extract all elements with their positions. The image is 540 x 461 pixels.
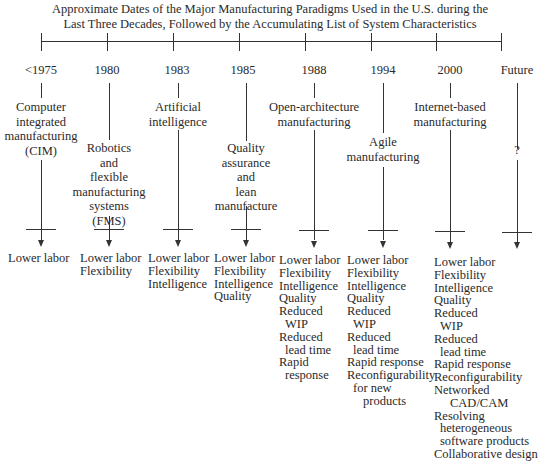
characteristics-list: Lower labor Flexibility Intelligence Qua… — [279, 254, 340, 382]
characteristic: Lower labor — [214, 252, 275, 265]
characteristic: Lower labor — [279, 254, 340, 267]
characteristics-list: Lower labor Flexibility Intelligence Qua… — [347, 254, 435, 408]
characteristics-list: Lower labor Flexibility — [80, 252, 141, 278]
characteristic: products — [347, 395, 435, 408]
characteristic: response — [279, 369, 340, 382]
paradigm-line: assurance — [191, 156, 301, 171]
paradigm-label: Quality assurance and lean manufacture — [191, 141, 301, 214]
paradigm-label: Internet-based manufacturing — [395, 100, 505, 129]
connector-line — [109, 83, 110, 140]
paradigm-line: Artificial — [123, 100, 233, 115]
year-label: 1994 — [348, 63, 418, 78]
paradigm-line: manufacturing — [328, 150, 438, 165]
connector-line — [314, 83, 315, 98]
characteristic: CAD/CAM — [434, 397, 538, 410]
paradigm-label: ? — [462, 143, 540, 158]
timeline-tick — [305, 33, 306, 51]
arrow-down-icon — [447, 242, 453, 249]
connector-line — [41, 83, 42, 98]
paradigm-line: Computer — [0, 100, 96, 115]
paradigm-line: lean — [191, 185, 301, 200]
year-label: <1975 — [6, 63, 76, 78]
characteristic: Networked — [434, 384, 538, 397]
timeline-tick — [436, 33, 437, 51]
characteristic: for new — [347, 382, 435, 395]
paradigm-line: manufacturing — [395, 115, 505, 130]
characteristic: WIP — [347, 318, 435, 331]
characteristics-list: Lower labor — [8, 252, 69, 265]
year-label: 2000 — [415, 63, 485, 78]
arrow-down-icon — [243, 240, 249, 247]
characteristic: Flexibility — [279, 267, 340, 280]
title-line-1: Approximate Dates of the Major Manufactu… — [0, 2, 540, 17]
paradigm-label: Robotics and flexible manufacturing syst… — [54, 141, 164, 228]
year-label: 1988 — [279, 63, 349, 78]
paradigm-label: Agile manufacturing — [328, 135, 438, 164]
paradigm-line: manufacturing — [54, 185, 164, 200]
characteristic: Flexibility — [214, 265, 275, 278]
characteristic: Lower labor — [148, 252, 209, 265]
paradigm-label: Open-architecture manufacturing — [259, 100, 369, 129]
crossbar — [26, 229, 56, 230]
characteristic: Flexibility — [434, 269, 538, 282]
characteristic: Collaborative design — [434, 448, 538, 461]
crossbar — [502, 232, 532, 233]
timeline-axis — [41, 41, 501, 42]
timeline-tick — [173, 33, 174, 51]
title-line-2: Last Three Decades, Followed by the Accu… — [0, 17, 540, 32]
timeline-tick — [371, 33, 372, 51]
characteristic: Intelligence — [148, 278, 209, 291]
timeline-tick — [107, 33, 108, 51]
connector-line — [246, 83, 247, 141]
connector-line — [517, 83, 518, 149]
characteristic: Lower labor — [8, 252, 69, 265]
characteristic: Reduced — [347, 331, 435, 344]
characteristic: Quality — [214, 290, 275, 303]
connector-line — [246, 206, 247, 240]
connector-line — [41, 160, 42, 240]
arrow-down-icon — [311, 241, 317, 248]
connector-line — [383, 83, 384, 133]
characteristic: WIP — [434, 320, 538, 333]
year-label: 1985 — [208, 63, 278, 78]
paradigm-line: flexible — [54, 170, 164, 185]
paradigm-line: and — [191, 170, 301, 185]
diagram-title: Approximate Dates of the Major Manufactu… — [0, 2, 540, 32]
year-label: 1983 — [142, 63, 212, 78]
paradigm-line: Agile — [328, 135, 438, 150]
crossbar — [94, 229, 124, 230]
connector-line — [517, 160, 518, 242]
paradigm-line: systems — [54, 199, 164, 214]
characteristics-list: Lower labor Flexibility Intelligence Qua… — [214, 252, 275, 303]
paradigm-line: Robotics — [54, 141, 164, 156]
year-label: 1980 — [72, 63, 142, 78]
paradigm-line: intelligence — [123, 115, 233, 130]
crossbar — [231, 229, 261, 230]
paradigm-line: ? — [462, 143, 540, 158]
arrow-down-icon — [380, 241, 386, 248]
timeline-tick — [239, 33, 240, 51]
characteristic: Flexibility — [347, 267, 435, 280]
crossbar — [299, 230, 329, 231]
paradigm-line: Quality — [191, 141, 301, 156]
characteristic: Reduced — [434, 333, 538, 346]
crossbar — [163, 229, 193, 230]
connector-line — [450, 130, 451, 242]
connector-line — [450, 83, 451, 98]
paradigm-line: Internet-based — [395, 100, 505, 115]
timeline-tick — [41, 33, 42, 51]
connector-line — [178, 83, 179, 98]
paradigm-line: and — [54, 156, 164, 171]
characteristics-list: Lower labor Flexibility Intelligence Qua… — [434, 256, 538, 461]
characteristic: Flexibility — [148, 265, 209, 278]
characteristic: Lower labor — [434, 256, 538, 269]
arrow-down-icon — [175, 240, 181, 247]
characteristic: Lower labor — [347, 254, 435, 267]
crossbar — [368, 230, 398, 231]
connector-line — [109, 216, 110, 240]
year-label: Future — [482, 63, 540, 78]
paradigm-label: Artificial intelligence — [123, 100, 233, 129]
characteristic: Flexibility — [80, 265, 141, 278]
arrow-down-icon — [106, 240, 112, 247]
characteristic: WIP — [279, 318, 340, 331]
